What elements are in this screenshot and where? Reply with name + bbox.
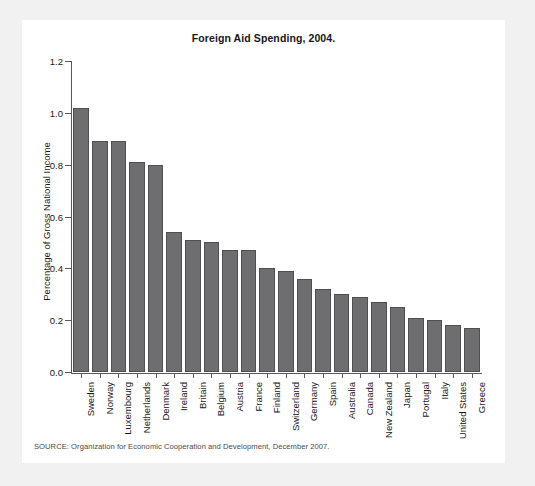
bar[interactable] <box>148 165 164 372</box>
bar[interactable] <box>111 141 127 372</box>
x-axis-tick-label: Portugal <box>420 382 431 417</box>
plot-area <box>72 61 481 372</box>
bar[interactable] <box>464 328 480 372</box>
x-axis-tick <box>137 373 138 378</box>
x-axis-tick <box>360 373 361 378</box>
bar-slot <box>241 61 257 372</box>
bar-slot <box>111 61 127 372</box>
bar-slot <box>278 61 294 372</box>
x-axis-tick <box>100 373 101 378</box>
bar[interactable] <box>315 289 331 372</box>
x-axis-tick-label: United States <box>457 382 468 439</box>
x-axis-tick <box>416 373 417 378</box>
x-axis-tick-label: Australia <box>346 382 357 419</box>
bar[interactable] <box>278 271 294 372</box>
x-axis-tick <box>249 373 250 378</box>
bar-slot <box>222 61 238 372</box>
x-axis-tick <box>267 373 268 378</box>
bar-slot <box>148 61 164 372</box>
bar-slot <box>352 61 368 372</box>
x-axis-tick <box>156 373 157 378</box>
bar-slot <box>408 61 424 372</box>
bar[interactable] <box>408 318 424 372</box>
bar[interactable] <box>241 250 257 372</box>
y-axis-tick <box>65 165 71 166</box>
bar-slot <box>464 61 480 372</box>
x-axis-tick <box>230 373 231 378</box>
x-axis-tick <box>397 373 398 378</box>
x-axis-tick <box>323 373 324 378</box>
x-axis-tick-label: Japan <box>401 382 412 408</box>
bar-slot <box>371 61 387 372</box>
x-axis-tick-label: New Zealand <box>383 382 394 438</box>
bar[interactable] <box>334 294 350 372</box>
bar-slot <box>259 61 275 372</box>
x-axis-tick-label: Ireland <box>178 382 189 411</box>
y-axis-tick-label: 0.0 <box>29 367 63 378</box>
x-axis-tick-label: Denmark <box>160 382 171 421</box>
x-axis-tick <box>453 373 454 378</box>
bar-slot <box>92 61 108 372</box>
x-axis-tick-label: Belgium <box>215 382 226 416</box>
source-note: SOURCE: Organization for Economic Cooper… <box>34 442 330 451</box>
bar-slot <box>204 61 220 372</box>
x-axis-tick <box>118 373 119 378</box>
x-axis-tick <box>435 373 436 378</box>
x-axis-tick <box>174 373 175 378</box>
bar[interactable] <box>73 108 89 372</box>
y-axis-title: Percentage of Gross National Income <box>41 112 52 332</box>
x-axis-tick <box>211 373 212 378</box>
x-axis-tick-label: Canada <box>364 382 375 415</box>
x-axis-tick <box>342 373 343 378</box>
y-axis-tick <box>65 61 71 62</box>
x-axis-tick-label: Italy <box>439 382 450 399</box>
bar-chart-figure: Foreign Aid Spending, 2004. 0.00.20.40.6… <box>22 20 505 463</box>
bar[interactable] <box>445 325 461 372</box>
y-axis-tick <box>65 320 71 321</box>
x-axis-tick-label: Sweden <box>85 382 96 416</box>
bar[interactable] <box>166 232 182 372</box>
bar-slot <box>315 61 331 372</box>
bar-slot <box>185 61 201 372</box>
x-axis-tick-label: Luxembourg <box>122 382 133 435</box>
bar-slot <box>297 61 313 372</box>
x-axis-tick-label: Spain <box>327 382 338 406</box>
bar[interactable] <box>297 279 313 372</box>
bar[interactable] <box>259 268 275 372</box>
x-axis-tick-label: Britain <box>197 382 208 409</box>
y-axis-tick-label: 1.2 <box>29 56 63 67</box>
bar-slot <box>445 61 461 372</box>
bar[interactable] <box>185 240 201 372</box>
bar[interactable] <box>129 162 145 372</box>
bar-slot <box>166 61 182 372</box>
x-axis-tick <box>193 373 194 378</box>
figure-card: Foreign Aid Spending, 2004. 0.00.20.40.6… <box>22 20 505 463</box>
page-background: Foreign Aid Spending, 2004. 0.00.20.40.6… <box>0 0 535 486</box>
chart-title: Foreign Aid Spending, 2004. <box>22 32 505 44</box>
bar[interactable] <box>352 297 368 372</box>
x-axis-tick <box>81 373 82 378</box>
bar[interactable] <box>427 320 443 372</box>
y-axis-tick <box>65 217 71 218</box>
x-axis-line <box>71 373 482 374</box>
bar[interactable] <box>390 307 406 372</box>
x-axis-tick-label: Austria <box>234 382 245 412</box>
bar[interactable] <box>222 250 238 372</box>
bar-slot <box>334 61 350 372</box>
bar[interactable] <box>371 302 387 372</box>
x-axis-tick <box>286 373 287 378</box>
bar[interactable] <box>204 242 220 372</box>
x-axis-tick-label: Netherlands <box>141 382 152 433</box>
y-axis-tick <box>65 113 71 114</box>
bar[interactable] <box>92 141 108 372</box>
x-axis-tick <box>304 373 305 378</box>
x-axis-tick-label: Germany <box>308 382 319 421</box>
y-axis-tick <box>65 268 71 269</box>
x-axis-tick <box>379 373 380 378</box>
x-axis-tick-label: Greece <box>476 382 487 413</box>
bar-slot <box>427 61 443 372</box>
bar-slot <box>390 61 406 372</box>
x-axis-tick <box>472 373 473 378</box>
x-axis-tick-label: France <box>253 382 264 412</box>
bar-slot <box>129 61 145 372</box>
